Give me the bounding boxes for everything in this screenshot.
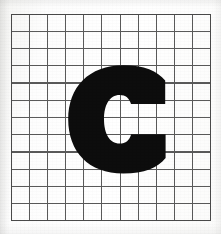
- scanned-page: [0, 0, 221, 234]
- letter-c-glyph: [0, 0, 221, 234]
- glyph-layer: [0, 0, 221, 234]
